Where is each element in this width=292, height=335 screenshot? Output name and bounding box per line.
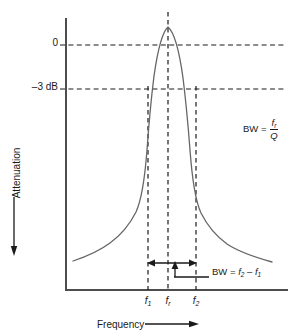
bw-q-formula-denominator: Q: [270, 130, 277, 141]
frequency-arrow-head: [189, 321, 199, 327]
y-tick-label-0: 0: [0, 38, 58, 48]
bw-leader-arrow-head: [172, 261, 179, 269]
bw-q-numerator-sub: r: [274, 122, 276, 129]
bw-diff-term1-sub: 2: [241, 271, 245, 278]
bw-q-formula-numerator: fr: [270, 118, 279, 130]
x-tick-f2-sub: 2: [195, 300, 199, 307]
response-curve: [73, 27, 272, 262]
figure-canvas: [0, 0, 292, 335]
y-tick-label-minus-3db: –3 dB: [0, 82, 58, 92]
bw-diff-prefix: BW =: [212, 266, 238, 277]
y-axis-title: Attenuation: [12, 133, 22, 213]
bw-diff-term2-sub: 1: [258, 271, 262, 278]
bw-q-formula-lhs: BW =: [243, 124, 267, 134]
attenuation-arrow-head: [11, 246, 17, 256]
bandwidth-q-formula: BW = fr Q: [243, 118, 278, 140]
bw-diff-operator: –: [244, 266, 255, 277]
x-tick-fr-sub: r: [168, 300, 170, 307]
filter-response-figure: 0 –3 dB f1 fr f2 Attenuation Frequency B…: [0, 0, 292, 335]
x-tick-label-f2: f2: [181, 296, 211, 306]
x-axis-title: Frequency: [97, 320, 144, 330]
bandwidth-difference-formula: BW = f2 – f1: [212, 267, 261, 277]
x-tick-label-fr: fr: [153, 296, 183, 306]
bw-q-formula-fraction: fr Q: [270, 118, 279, 140]
x-tick-f1-sub: 1: [147, 300, 151, 307]
